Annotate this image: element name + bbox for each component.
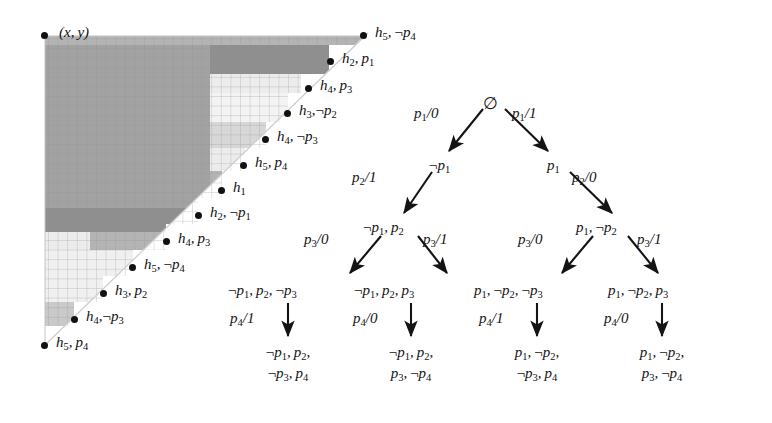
point-label-h3-not-p2: h3,¬p2: [299, 103, 337, 120]
point-label-origin: (x, y): [59, 25, 89, 40]
point-marker-h5-p4-bot: [41, 342, 48, 349]
tree-node-p1-not-p2: p1, ¬p2: [576, 220, 617, 237]
tree-edge-label-p4-0-b: p4/0: [604, 311, 628, 328]
point-marker-h1: [218, 187, 225, 194]
tree-node-l3: p1, ¬p2, ¬p3: [474, 283, 543, 300]
tree-edge-label-p3-0-left: p3/0: [304, 232, 328, 249]
point-marker-h5-p4-top: [240, 162, 247, 169]
tree-edge-label-p3-0-right: p3/0: [518, 232, 542, 249]
tree-edge-label-p1-0: p1/0: [414, 106, 438, 123]
tree-leaf-4-line1: p1, ¬p2,: [640, 344, 684, 360]
tree-leaf-2-line1: ¬p1, p2,: [389, 344, 433, 360]
point-marker-origin: [41, 32, 48, 39]
point-marker-h3-p2: [100, 290, 107, 297]
figure-root: (x, y) h5, ¬p4 h2, p1 h4, p3 h3,¬p2 h4, …: [0, 0, 772, 423]
point-label-h5-not-p4-bot: h5, ¬p4: [144, 257, 185, 274]
tree-node-l1: ¬p1, p2, ¬p3: [228, 283, 297, 300]
point-marker-h5-not-p4-top: [360, 32, 367, 39]
point-marker-h4-p3-top: [305, 85, 312, 92]
point-marker-h3-not-p2: [284, 110, 291, 117]
tree-leaf-1-line2: ¬p3, p4: [268, 365, 309, 381]
tree-node-l2: ¬p1, p2, p3: [354, 283, 414, 300]
point-label-h4-p3-top: h4, p3: [320, 78, 352, 95]
tree-edge-label-p2-0: p2/0: [572, 170, 596, 187]
point-marker-h4-p3-bot: [163, 238, 170, 245]
point-label-h4-not-p3-bot: h4,¬p3: [86, 309, 124, 326]
tree-edge-label-p3-1-right: p3/1: [637, 232, 661, 249]
tree-leaf-1-line1: ¬p1, p2,: [266, 344, 310, 360]
tree-leaf-4: p1, ¬p2, p3, ¬p4: [640, 344, 684, 386]
point-marker-h5-not-p4-bot: [129, 264, 136, 271]
point-marker-h4-not-p3-top: [262, 136, 269, 143]
tree-leaf-3: p1, ¬p2, ¬p3, p4: [515, 344, 559, 386]
point-label-h4-not-p3-top: h4, ¬p3: [277, 129, 318, 146]
tree-leaf-3-line2: ¬p3, p4: [517, 365, 558, 381]
point-label-h5-p4-bot: h5, p4: [56, 335, 88, 352]
tree-edge-label-p4-0-a: p4/0: [353, 311, 377, 328]
tree-leaf-1: ¬p1, p2, ¬p3, p4: [266, 344, 310, 386]
tree-leaf-3-line1: p1, ¬p2,: [515, 344, 559, 360]
tree-edge-label-p4-1-a: p4/1: [230, 311, 254, 328]
tree-node-not-p1: ¬p1: [429, 158, 450, 175]
point-label-h4-p3-bot: h4, p3: [178, 231, 210, 248]
tree-leaf-2: ¬p1, p2, p3, ¬p4: [389, 344, 433, 386]
point-marker-h2-p1: [327, 58, 334, 65]
point-marker-h2-not-p1: [195, 212, 202, 219]
tree-leaf-2-line2: p3, ¬p4: [391, 365, 432, 381]
point-label-h5-p4-top: h5, p4: [255, 155, 287, 172]
tree-leaf-4-line2: p3, ¬p4: [642, 365, 683, 381]
tree-edge-label-p2-1: p2/1: [352, 170, 376, 187]
tree-node-not-p1-p2: ¬p1, p2: [363, 220, 404, 237]
point-marker-h4-not-p3-bot: [71, 316, 78, 323]
tree-node-p1: p1: [547, 158, 560, 175]
point-label-h2-p1: h2, p1: [342, 51, 374, 68]
tree-node-root: ∅: [483, 95, 498, 112]
point-label-h2-not-p1: h2, ¬p1: [210, 205, 251, 222]
tree-edge-label-p1-1: p1/1: [512, 106, 536, 123]
point-label-h5-not-p4-top: h5, ¬p4: [375, 25, 416, 42]
tree-edge-label-p4-1-b: p4/1: [479, 311, 503, 328]
point-label-h3-p2: h3, p2: [115, 283, 147, 300]
tree-edge-label-p3-1-left: p3/1: [423, 232, 447, 249]
tree-node-l4: p1, ¬p2, p3: [608, 283, 668, 300]
point-label-h1: h1: [233, 180, 246, 197]
